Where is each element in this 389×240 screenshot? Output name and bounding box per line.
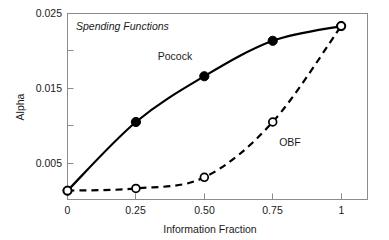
x-tick-label-0: 0 (65, 204, 71, 216)
pocock-curve (68, 26, 342, 191)
pocock-markers (63, 21, 346, 195)
y-tick-label-0.025: 0.025 (36, 7, 62, 19)
obf-point-1 (337, 22, 345, 30)
plot-annotation-spending-functions: Spending Functions (76, 20, 170, 32)
y-axis-ticks (68, 14, 74, 164)
plot-frame (68, 14, 368, 200)
y-tick-label-0.015: 0.015 (36, 82, 62, 94)
x-axis-ticks (68, 194, 342, 200)
pocock-point-0.75 (268, 36, 277, 45)
pocock-point-0.25 (131, 117, 140, 126)
x-tick-label-0.75: 0.75 (262, 204, 283, 216)
obf-point-0.5 (200, 173, 208, 181)
x-tick-label-0.25: 0.25 (125, 204, 146, 216)
obf-curve (68, 26, 342, 191)
y-axis-title: Alpha (14, 93, 26, 120)
x-axis-title: Information Fraction (163, 223, 257, 235)
x-tick-label-1: 1 (339, 204, 345, 216)
y-tick-label-0.005: 0.005 (36, 157, 62, 169)
obf-point-0.25 (132, 185, 140, 193)
spending-functions-chart: 0.025 0.015 0.005 0 0.25 0.50 0.75 1 Inf… (0, 0, 389, 240)
x-tick-label-0.50: 0.50 (194, 204, 215, 216)
series-label-obf: OBF (279, 136, 301, 148)
pocock-point-0.5 (200, 72, 209, 81)
chart-canvas: 0.025 0.015 0.005 0 0.25 0.50 0.75 1 Inf… (0, 0, 389, 240)
obf-markers (64, 22, 345, 194)
obf-point-0 (64, 187, 72, 195)
obf-point-0.75 (269, 118, 277, 126)
series-label-pocock: Pocock (158, 50, 193, 62)
